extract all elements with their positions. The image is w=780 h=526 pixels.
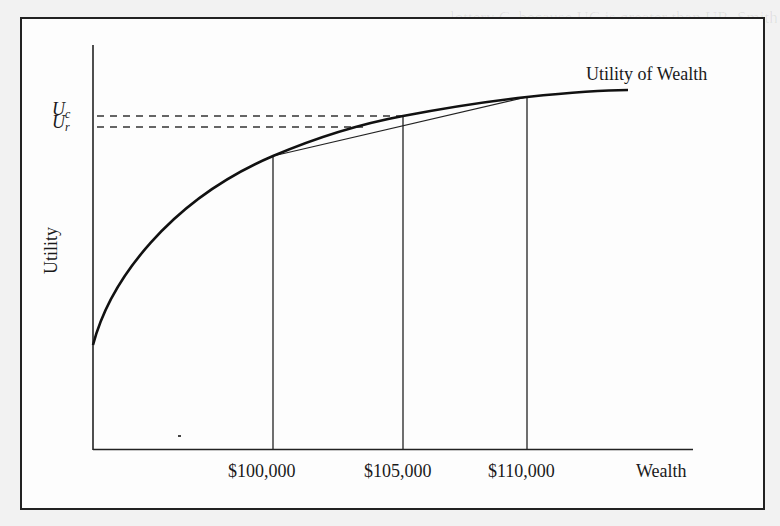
ur-label-main: U [52,112,65,132]
y-axis-label: Utility [41,227,62,274]
ur-label-sub: r [65,120,70,134]
x-axis-label: Wealth [636,461,687,482]
utility-curve [93,90,628,345]
x-tick-110000: $110,000 [488,461,555,482]
ur-label: Ur [52,112,70,135]
figure-page: lottery C, because UC is greater than UR… [0,0,780,526]
scan-speck [178,435,181,437]
curve-label: Utility of Wealth [586,64,707,85]
x-tick-105000: $105,000 [364,461,432,482]
x-tick-100000: $100,000 [228,461,296,482]
